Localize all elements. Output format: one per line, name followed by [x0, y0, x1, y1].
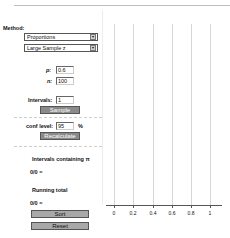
conf-level-input[interactable]: 95: [56, 122, 74, 130]
gridline: [172, 24, 173, 205]
conf-level-label: conf level:: [26, 123, 53, 129]
tick-label: 0.2: [130, 210, 137, 216]
sample-button[interactable]: Sample: [40, 106, 80, 114]
reset-button[interactable]: Reset: [31, 222, 89, 230]
tick: [153, 206, 154, 208]
tick: [172, 206, 173, 208]
tick-label: 1: [209, 210, 212, 216]
dashed-divider: [14, 117, 102, 118]
tick-label: 0.8: [188, 210, 195, 216]
recalculate-button[interactable]: Recalculate: [40, 132, 80, 140]
sort-button[interactable]: Sort: [31, 210, 89, 218]
method-label: Method:: [3, 25, 24, 31]
method-sub-select-value: Large Sample z: [27, 45, 66, 51]
tick: [133, 206, 134, 208]
gridline: [133, 24, 134, 205]
running-total-label: Running total: [32, 187, 67, 193]
n-label: n:: [47, 78, 52, 84]
dashed-divider: [14, 146, 102, 147]
method-select-value: Proportions: [27, 34, 55, 40]
tick-label: 0.4: [150, 210, 157, 216]
intervals-label: Intervals:: [28, 97, 52, 103]
tick: [210, 206, 211, 208]
intervals-containing-value: 0/0 =: [30, 169, 42, 175]
p-label: p:: [46, 67, 51, 73]
controls-panel: Method: Proportions ▾ Large Sample z ▾ p…: [0, 0, 102, 238]
tick-label: 0: [113, 210, 116, 216]
tick-label: 0.6: [169, 210, 176, 216]
method-select[interactable]: Proportions ▾: [24, 33, 98, 41]
running-total-value: 0/0 =: [30, 200, 42, 206]
tick: [191, 206, 192, 208]
x-axis: [106, 205, 222, 206]
method-sub-select[interactable]: Large Sample z ▾: [24, 44, 98, 52]
gridline: [153, 24, 154, 205]
gridline: [210, 24, 211, 205]
interval-chart: 0 0.2 0.4 0.6 0.8 1: [103, 0, 230, 238]
gridline: [191, 24, 192, 205]
intervals-containing-label: Intervals containing π: [32, 156, 90, 162]
gridline: [114, 24, 115, 205]
p-input[interactable]: 0.6: [56, 66, 74, 74]
tick: [114, 206, 115, 208]
dropdown-arrow-icon[interactable]: ▾: [90, 34, 96, 40]
n-input[interactable]: 100: [56, 77, 74, 85]
intervals-input[interactable]: 1: [56, 96, 74, 104]
dropdown-arrow-icon[interactable]: ▾: [90, 45, 96, 51]
percent-sign: %: [78, 123, 83, 129]
